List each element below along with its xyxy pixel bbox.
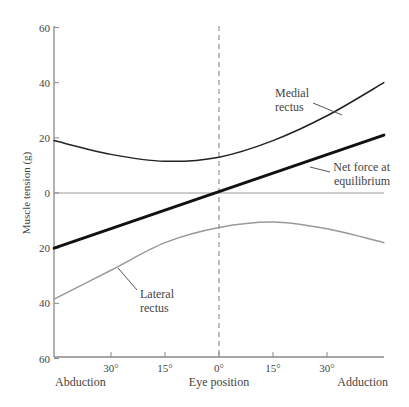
x-tick-label: 0° xyxy=(214,362,224,374)
x-tick-label: 15° xyxy=(157,362,172,374)
y-axis-label: Muscle tension (g) xyxy=(20,151,33,234)
lateral-rectus-leader-line xyxy=(118,268,137,290)
y-tick-label: 40 xyxy=(39,77,51,89)
adduction-label: Adduction xyxy=(337,375,388,389)
y-tick-label: 60 xyxy=(39,353,51,365)
y-tick-label: 0 xyxy=(45,187,51,199)
medial-rectus-label: rectus xyxy=(275,100,304,114)
annotations: MedialrectusNet force atequilibriumLater… xyxy=(118,86,391,315)
x-tick-label: 30° xyxy=(319,362,334,374)
medial-rectus-leader-line xyxy=(313,103,342,115)
net-force-leader-line xyxy=(310,167,330,172)
lateral-rectus-label: Lateral xyxy=(140,287,175,301)
y-tick-label: 20 xyxy=(39,242,51,254)
lateral-rectus-label: rectus xyxy=(140,301,169,315)
medial-rectus-label: Medial xyxy=(275,86,310,100)
series-lines xyxy=(54,83,384,300)
medial-rectus-line xyxy=(54,83,384,162)
x-tick-label: 15° xyxy=(265,362,280,374)
y-tick-label: 20 xyxy=(39,132,51,144)
abduction-label: Abduction xyxy=(55,375,106,389)
axes: 604020020406030°15°0°15°30°Muscle tensio… xyxy=(20,22,388,390)
net-force-label: equilibrium xyxy=(334,174,391,188)
net-force-label: Net force at xyxy=(333,160,390,174)
y-tick-label: 40 xyxy=(39,297,51,309)
muscle-tension-chart: 604020020406030°15°0°15°30°Muscle tensio… xyxy=(0,0,409,407)
x-axis-label: Eye position xyxy=(189,375,249,389)
x-tick-label: 30° xyxy=(103,362,118,374)
y-tick-label: 60 xyxy=(39,22,51,34)
